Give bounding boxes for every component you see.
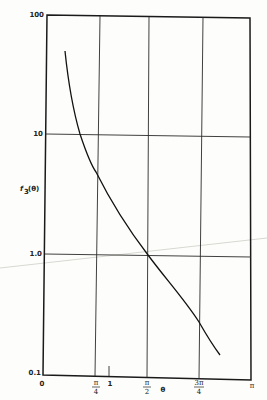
y-tick-label-0-1: 0.1 [29, 369, 42, 377]
vertical-gridlines [95, 16, 203, 379]
data-curve-f3 [65, 51, 220, 355]
svg-text:π: π [94, 379, 99, 387]
x-tick-label-pi-4: π 4 [92, 379, 100, 396]
x-tick-label-pi-2: π 2 [143, 379, 151, 396]
x-tick-label-1: 1 [108, 380, 113, 388]
x-axis-title: θ [161, 386, 166, 394]
x-tick-label-3pi-4: 3π 4 [194, 379, 204, 396]
chart-canvas: 100 10 1.0 0.1 f 3 (θ) 0 π 4 1 π 2 θ 3π … [0, 0, 267, 400]
svg-text:π: π [145, 379, 150, 387]
y-title-arg: (θ) [28, 185, 39, 193]
y-tick-label-100: 100 [29, 11, 44, 19]
svg-text:4: 4 [197, 388, 202, 396]
gridline-x-pi-4 [95, 16, 100, 376]
y-tick-label-1: 1.0 [30, 250, 43, 258]
svg-text:2: 2 [145, 388, 149, 396]
svg-text:3π: 3π [194, 379, 203, 387]
x-tick-label-pi: π [250, 382, 255, 390]
x-tick-label-0: 0 [40, 380, 45, 388]
y-axis-title: f 3 (θ) [20, 185, 39, 196]
gridline-x-pi-2 [147, 17, 149, 377]
svg-text:4: 4 [94, 388, 99, 396]
y-tick-label-10: 10 [33, 130, 43, 138]
